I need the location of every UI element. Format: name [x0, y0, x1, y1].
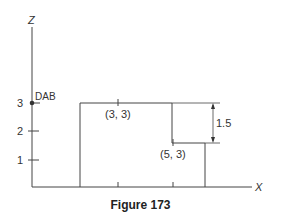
figure-caption: Figure 173: [0, 198, 281, 212]
z-tick-label-2: 2: [17, 125, 23, 137]
z-axis-label: Z: [27, 14, 36, 26]
upper-step-label: (3, 3): [105, 108, 131, 120]
step-outline: [80, 103, 205, 187]
dimension-label: 1.5: [216, 117, 231, 129]
dab-point: [30, 101, 35, 106]
dim-arrow-down-icon: [211, 137, 215, 143]
dab-label: DAB: [35, 91, 56, 102]
lower-step-label: (5, 3): [160, 148, 186, 160]
z-tick-label-3: 3: [17, 97, 23, 109]
z-tick-label-1: 1: [17, 154, 23, 166]
dim-arrow-up-icon: [211, 103, 215, 109]
step-diagram: Z X 3 2 1 DAB (3, 3) (5, 3) 1.5: [0, 0, 281, 222]
x-axis-label: X: [254, 181, 263, 193]
